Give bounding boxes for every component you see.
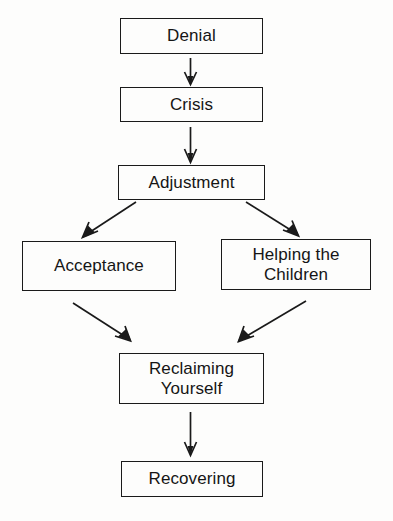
node-crisis: Crisis (120, 87, 263, 122)
node-recovering: Recovering (121, 461, 263, 497)
node-denial-label: Denial (163, 26, 220, 46)
node-acceptance-label: Acceptance (50, 256, 148, 276)
edge-denial-crisis (185, 58, 197, 85)
edge-reclaiming-recovering (185, 412, 197, 456)
diagram-canvas: Denial Crisis Adjustment Acceptance Help… (0, 0, 393, 521)
node-reclaiming-yourself-label: Reclaiming Yourself (145, 359, 238, 398)
edge-crisis-adjustment (185, 127, 197, 163)
edge-adjustment-helping (246, 202, 300, 237)
node-reclaiming-yourself: Reclaiming Yourself (119, 353, 264, 404)
node-acceptance: Acceptance (22, 241, 176, 291)
node-helping-the-children: Helping the Children (221, 239, 371, 290)
edge-acceptance-reclaiming (73, 303, 132, 342)
node-adjustment: Adjustment (118, 165, 265, 200)
edge-adjustment-acceptance (82, 202, 136, 238)
edge-helping-reclaiming (238, 301, 307, 342)
node-crisis-label: Crisis (166, 95, 217, 115)
node-helping-the-children-label: Helping the Children (248, 245, 343, 284)
node-recovering-label: Recovering (145, 469, 240, 489)
node-denial: Denial (120, 18, 263, 54)
node-adjustment-label: Adjustment (144, 173, 238, 193)
